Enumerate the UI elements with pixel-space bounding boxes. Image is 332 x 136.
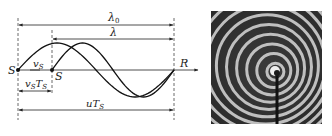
vsts-label: vSTS (25, 78, 47, 91)
uts-label: uTS (86, 98, 104, 111)
source-point-right (50, 68, 54, 72)
source-left-label: S (8, 64, 16, 77)
ripple-photo (211, 11, 322, 124)
stick (276, 73, 279, 124)
source-velocity-label: vS (33, 58, 44, 71)
lambda-label: λ (109, 26, 117, 39)
receiver-label: R (179, 57, 188, 70)
lambda0-label: λ0 (107, 11, 119, 25)
doppler-diagram: λ0 λ S S R vS vSTS uTS (0, 0, 210, 136)
source-point-left (16, 68, 20, 72)
source-right-label: S (55, 70, 63, 83)
stick-tip (274, 70, 280, 76)
